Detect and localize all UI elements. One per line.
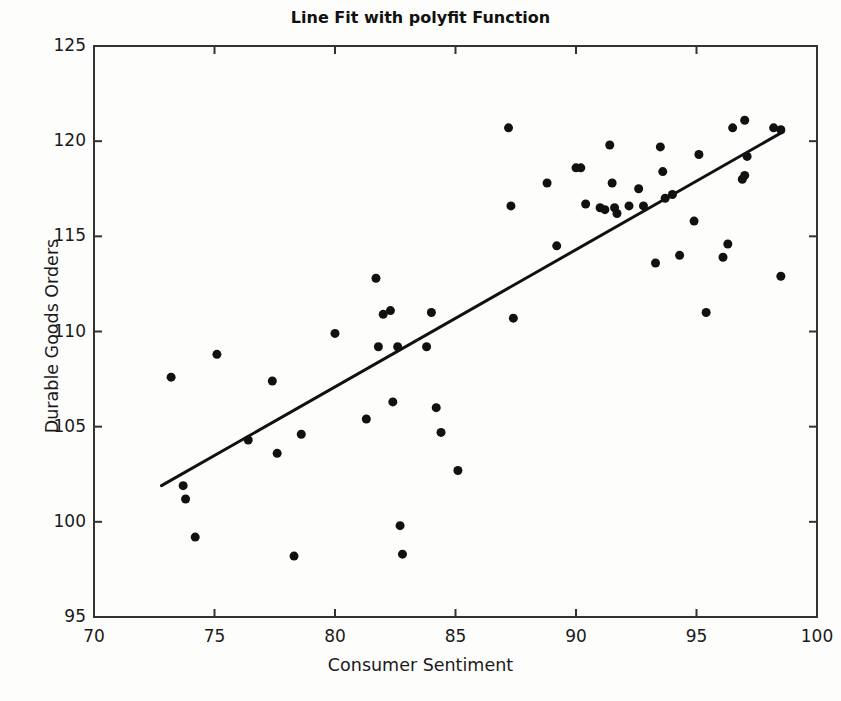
chart-figure: Line Fit with polyfit Function 707580859… <box>0 0 841 701</box>
data-point-marker <box>656 142 665 151</box>
data-point-marker <box>506 201 515 210</box>
scatter-plot-canvas <box>0 0 841 701</box>
x-axis-label: Consumer Sentiment <box>0 655 841 675</box>
data-point-marker <box>690 217 699 226</box>
data-point-marker <box>694 150 703 159</box>
data-point-marker <box>740 116 749 125</box>
x-tick-label: 100 <box>787 626 841 646</box>
y-tick-label: 125 <box>26 35 86 55</box>
data-point-marker <box>723 239 732 248</box>
data-point-marker <box>297 430 306 439</box>
data-point-marker <box>543 179 552 188</box>
data-point-marker <box>675 251 684 260</box>
data-point-marker <box>388 397 397 406</box>
data-point-marker <box>702 308 711 317</box>
data-point-marker <box>437 428 446 437</box>
plot-border <box>94 46 817 617</box>
data-point-marker <box>576 163 585 172</box>
x-tick-label: 95 <box>667 626 727 646</box>
data-point-marker <box>422 342 431 351</box>
data-point-marker <box>740 171 749 180</box>
data-point-marker <box>290 552 299 561</box>
x-tick-label: 85 <box>426 626 486 646</box>
data-point-marker <box>608 179 617 188</box>
data-point-marker <box>504 123 513 132</box>
data-point-marker <box>398 550 407 559</box>
axis-ticks <box>94 46 817 617</box>
data-point-marker <box>728 123 737 132</box>
data-point-marker <box>362 415 371 424</box>
polyfit-regression-line <box>161 132 783 486</box>
data-point-marker <box>268 376 277 385</box>
data-point-marker <box>393 342 402 351</box>
data-point-marker <box>634 184 643 193</box>
data-point-marker <box>719 253 728 262</box>
data-point-marker <box>776 272 785 281</box>
data-point-marker <box>600 205 609 214</box>
data-point-marker <box>581 199 590 208</box>
data-point-marker <box>432 403 441 412</box>
data-point-marker <box>179 481 188 490</box>
data-point-marker <box>743 152 752 161</box>
data-point-marker <box>612 209 621 218</box>
data-point-marker <box>639 201 648 210</box>
data-point-marker <box>181 494 190 503</box>
fit-line <box>161 132 783 486</box>
data-point-marker <box>244 435 253 444</box>
data-point-marker <box>552 241 561 250</box>
data-point-marker <box>191 533 200 542</box>
data-point-marker <box>374 342 383 351</box>
data-point-marker <box>386 306 395 315</box>
y-axis-label: Durable Goods Orders <box>42 186 62 486</box>
data-point-marker <box>625 201 634 210</box>
axes-frame <box>94 46 817 617</box>
data-point-marker <box>273 449 282 458</box>
y-tick-label: 100 <box>26 511 86 531</box>
x-tick-label: 90 <box>546 626 606 646</box>
data-point-marker <box>668 190 677 199</box>
data-point-marker <box>651 258 660 267</box>
data-point-marker <box>212 350 221 359</box>
data-point-marker <box>167 373 176 382</box>
data-point-marker <box>371 274 380 283</box>
data-point-marker <box>453 466 462 475</box>
data-point-marker <box>427 308 436 317</box>
y-tick-label: 95 <box>26 606 86 626</box>
data-point-marker <box>331 329 340 338</box>
x-tick-label: 70 <box>64 626 124 646</box>
y-tick-label: 120 <box>26 130 86 150</box>
data-point-marker <box>605 140 614 149</box>
data-point-marker <box>776 125 785 134</box>
data-point-marker <box>396 521 405 530</box>
x-tick-label: 75 <box>185 626 245 646</box>
x-tick-label: 80 <box>305 626 365 646</box>
data-point-marker <box>509 314 518 323</box>
data-point-marker <box>658 167 667 176</box>
